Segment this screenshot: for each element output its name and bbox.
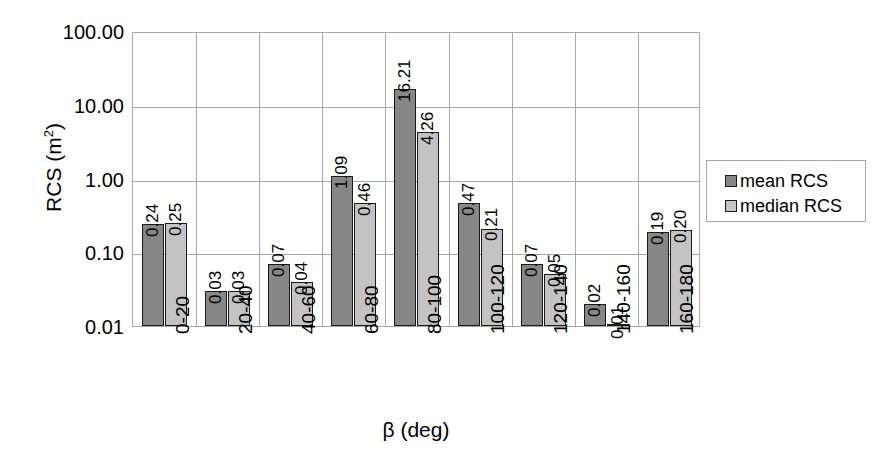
y-axis-tick-labels: 100.0010.001.000.100.01 xyxy=(24,0,124,459)
legend-swatch-icon xyxy=(725,175,737,187)
chart-legend: mean RCSmedian RCS xyxy=(706,160,866,222)
x-axis-tick-label: 140-160 xyxy=(614,264,633,334)
legend-label: mean RCS xyxy=(740,172,828,190)
bar-value-label: 0.25 xyxy=(167,203,184,236)
legend-swatch-icon xyxy=(725,200,737,212)
bar-value-label: 0.46 xyxy=(356,183,373,216)
bar-value-label: 0.07 xyxy=(270,244,287,277)
bar-group: 0.070.04 xyxy=(259,33,322,326)
x-axis-title: β (deg) xyxy=(132,418,700,442)
rcs-bar-chart: RCS (m2) 100.0010.001.000.100.01 0.240.2… xyxy=(0,0,891,459)
bar-value-label: 4.26 xyxy=(419,112,436,145)
bar-value-label: 0.02 xyxy=(586,284,603,317)
bar-value-label: 0.47 xyxy=(460,183,477,216)
bar-value-label: 0.03 xyxy=(207,271,224,304)
bar-group: 1.090.46 xyxy=(322,33,385,326)
y-axis-tick-label: 0.01 xyxy=(28,317,124,337)
bar-group: 0.030.03 xyxy=(196,33,259,326)
bar-value-label: 0.24 xyxy=(144,204,161,237)
bar-value-label: 0.19 xyxy=(649,212,666,245)
legend-item[interactable]: mean RCS xyxy=(725,169,865,192)
legend-item[interactable]: median RCS xyxy=(725,194,865,217)
x-axis-tick-label: 160-180 xyxy=(677,264,696,334)
y-axis-tick-label: 10.00 xyxy=(28,96,124,116)
bar[interactable] xyxy=(331,176,353,326)
x-axis-tick-label: 40-60 xyxy=(299,285,318,334)
bar[interactable] xyxy=(142,224,164,326)
bar-value-label: 0.07 xyxy=(523,244,540,277)
y-axis-tick-label: 1.00 xyxy=(28,170,124,190)
x-axis-tick-label: 60-80 xyxy=(362,285,381,334)
bar[interactable] xyxy=(647,232,669,326)
bar[interactable] xyxy=(394,89,416,326)
x-axis-tick-label: 20-40 xyxy=(236,285,255,334)
y-axis-tick-label: 100.00 xyxy=(28,22,124,42)
bar-value-label: 1.09 xyxy=(333,156,350,189)
legend-label: median RCS xyxy=(740,197,842,215)
x-axis-tick-label: 120-140 xyxy=(551,264,570,334)
x-axis-tick-label: 0-20 xyxy=(173,296,192,334)
x-axis-tick-label: 100-120 xyxy=(488,264,507,334)
bar[interactable] xyxy=(458,203,480,326)
y-axis-tick-label: 0.10 xyxy=(28,243,124,263)
x-axis-tick-label: 80-100 xyxy=(425,275,444,334)
bar-value-label: 0.21 xyxy=(483,208,500,241)
bar-group: 0.240.25 xyxy=(133,33,196,326)
bar-value-label: 0.20 xyxy=(672,210,689,243)
bar-value-label: 16.21 xyxy=(396,60,413,103)
